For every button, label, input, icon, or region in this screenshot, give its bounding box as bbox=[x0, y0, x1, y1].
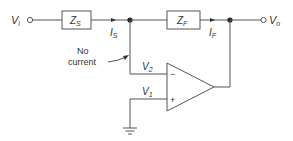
output-terminal-icon bbox=[261, 17, 266, 22]
noninverting-input-symbol: + bbox=[170, 95, 175, 105]
v2-label: V2 bbox=[142, 61, 153, 73]
noninverting-input-wire bbox=[130, 99, 167, 128]
v1-label: V1 bbox=[142, 86, 153, 98]
output-voltage-label: Vo bbox=[269, 14, 280, 27]
no-current-arrowhead-icon bbox=[123, 55, 129, 60]
opamp-output-wire bbox=[214, 20, 230, 87]
input-voltage-label: Vi bbox=[11, 14, 20, 27]
feedback-current-arrow-icon bbox=[210, 18, 215, 22]
circuit-diagram: Vi ZS IS ZF IF Vo No current − + V2 V1 bbox=[0, 0, 293, 141]
no-current-annotation-line1: No bbox=[77, 46, 89, 56]
no-current-arrow-line bbox=[108, 57, 126, 62]
no-current-annotation-line2: current bbox=[68, 57, 97, 67]
inverting-input-symbol: − bbox=[170, 69, 175, 79]
ground-icon bbox=[123, 128, 137, 134]
feedback-current-label: IF bbox=[209, 27, 217, 39]
input-terminal-icon bbox=[27, 17, 32, 22]
source-current-arrow-icon bbox=[111, 18, 116, 22]
source-current-label: IS bbox=[110, 27, 118, 39]
